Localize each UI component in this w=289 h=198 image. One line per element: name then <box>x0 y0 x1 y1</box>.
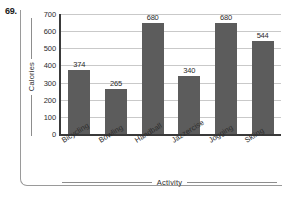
x-axis-title: Activity <box>152 178 187 187</box>
bar-slot: 340 <box>171 14 208 134</box>
y-axis-title-leader-top <box>31 18 32 59</box>
bar-handball[interactable] <box>142 23 164 135</box>
x-axis-title-leader-left <box>62 182 152 183</box>
y-axis-title: Calories <box>27 59 36 94</box>
x-axis-title-block: Activity <box>62 176 277 188</box>
bar-value-label: 680 <box>147 14 159 22</box>
bar-value-label: 265 <box>110 80 122 88</box>
bar-chart-figure: 69. Calories 0100200300400500600700 3742… <box>0 0 289 198</box>
x-axis-title-leader-right <box>187 182 277 183</box>
y-tick-label: 600 <box>44 27 56 36</box>
y-axis-tick-labels: 0100200300400500600700 <box>38 12 58 136</box>
y-tick-label: 300 <box>44 78 56 87</box>
plot-area: 374265680340680544 <box>59 14 281 136</box>
y-tick-label: 500 <box>44 44 56 53</box>
bar-value-label: 374 <box>73 61 85 69</box>
y-tick-label: 0 <box>52 130 56 139</box>
bar-slot: 680 <box>208 14 245 134</box>
x-axis-tick-labels: BicyclingBowlingHandballJazzerciseJoggin… <box>59 137 279 177</box>
bar-value-label: 680 <box>220 14 232 22</box>
y-axis-title-leader-bottom <box>31 95 32 136</box>
bar-slot: 680 <box>134 14 171 134</box>
y-tick-label: 200 <box>44 95 56 104</box>
bar-slot: 374 <box>61 14 98 134</box>
bar-skiing[interactable] <box>252 41 274 134</box>
y-axis-title-block: Calories <box>24 18 38 136</box>
problem-number: 69. <box>5 6 17 16</box>
bar-value-label: 544 <box>257 32 269 40</box>
bar-value-label: 340 <box>183 67 195 75</box>
bar-slot: 265 <box>98 14 135 134</box>
y-tick-label: 100 <box>44 112 56 121</box>
y-tick-label: 700 <box>44 10 56 19</box>
bar-series: 374265680340680544 <box>61 14 281 134</box>
bar-slot: 544 <box>244 14 281 134</box>
y-tick-label: 400 <box>44 61 56 70</box>
bar-jogging[interactable] <box>215 23 237 135</box>
